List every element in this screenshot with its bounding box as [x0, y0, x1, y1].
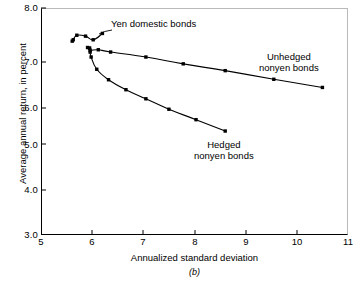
data-point-marker [224, 129, 227, 132]
data-point-marker [167, 108, 170, 111]
plot-canvas [0, 0, 363, 283]
data-point-marker [272, 78, 275, 81]
axis-ticks [41, 8, 297, 235]
series-line [90, 48, 226, 131]
data-point-marker [88, 46, 91, 49]
data-point-marker [97, 48, 100, 51]
annotation-line: Unhedged [259, 51, 319, 62]
data-point-marker [72, 38, 75, 41]
annotation-line: nonyen bonds [259, 62, 319, 73]
data-point-marker [109, 50, 112, 53]
data-point-marker [144, 55, 147, 58]
annotation-unhedged-nonyen-bonds: Unhedged nonyen bonds [259, 51, 319, 73]
data-point-marker [89, 55, 92, 58]
data-point-marker [182, 62, 185, 65]
data-point-marker [75, 34, 78, 37]
data-point-marker [88, 50, 91, 53]
annotation-yen-domestic-bonds: Yen domestic bonds [111, 18, 196, 29]
annotation-line: Yen domestic bonds [111, 18, 196, 29]
data-series-layer [71, 32, 325, 133]
annotation-line: nonyen bonds [194, 150, 254, 161]
annotation-line: Hedged [194, 139, 254, 150]
data-point-marker [107, 78, 110, 81]
data-point-marker [91, 38, 94, 41]
annotation-hedged-nonyen-bonds: Hedged nonyen bonds [194, 139, 254, 161]
data-point-marker [95, 68, 98, 71]
data-point-marker [224, 69, 227, 72]
data-series [71, 32, 105, 43]
data-point-marker [84, 34, 87, 37]
data-point-marker [124, 88, 127, 91]
data-point-marker [194, 118, 197, 121]
data-point-marker [144, 97, 147, 100]
data-point-marker [321, 86, 324, 89]
chart-figure: 8.0 7.0 6.0 5.0 4.0 3.0 5 6 7 8 9 10 11 … [0, 0, 363, 283]
